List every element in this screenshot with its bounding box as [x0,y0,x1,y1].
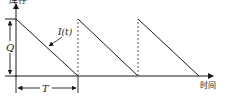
curve-label-pointer [49,37,62,46]
inventory-diagram: 库存 Q T I(t) 时间 [0,0,227,101]
x-axis-label: 时间 [200,80,216,90]
q-label: Q [6,42,14,53]
curve-label: I(t) [57,27,73,37]
y-axis-label: 库存 [9,0,27,5]
depletion-line-2 [78,19,138,76]
depletion-line-3 [138,19,199,76]
